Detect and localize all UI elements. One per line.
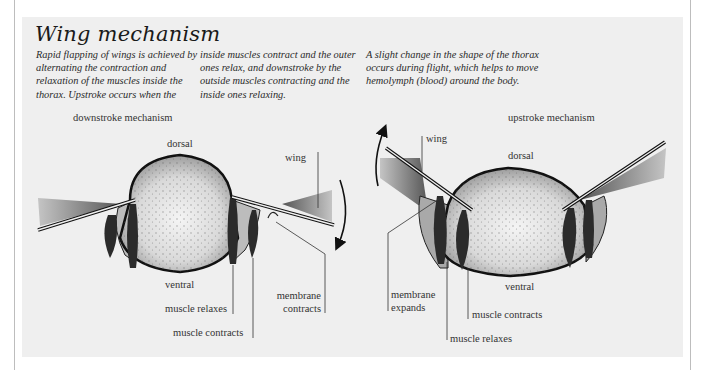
downstroke-membrane-label-line1: membrane xyxy=(273,290,321,301)
right-wing-membrane-icon xyxy=(580,148,666,200)
outer-muscle-left-icon xyxy=(104,215,117,258)
upstroke-ventral-label: ventral xyxy=(505,281,534,292)
upstroke-wing-label: wing xyxy=(426,133,447,144)
downstroke-arrow-icon xyxy=(338,180,346,245)
upstroke-membrane-label-line1: membrane xyxy=(391,289,435,300)
downstroke-dorsal-label: dorsal xyxy=(167,138,193,149)
upstroke-muscle-relaxes-label: muscle relaxes xyxy=(450,333,512,344)
inner-muscle-left-icon xyxy=(127,204,138,268)
downstroke-wing-label: wing xyxy=(285,152,306,163)
downstroke-heading: downstroke mechanism xyxy=(73,112,172,123)
outer-muscle-right-icon xyxy=(583,200,594,258)
upstroke-dorsal-label: dorsal xyxy=(508,150,534,161)
downstroke-membrane-label-line2: contracts xyxy=(279,303,321,314)
downstroke-ventral-label: ventral xyxy=(165,279,194,290)
downstroke-muscle-contracts-label: muscle contracts xyxy=(173,327,243,338)
wing-mechanism-diagrams xyxy=(0,0,705,370)
upstroke-muscle-contracts-label: muscle contracts xyxy=(472,309,542,320)
upstroke-membrane-label-line2: expands xyxy=(391,302,425,313)
upstroke-heading: upstroke mechanism xyxy=(508,112,595,123)
downstroke-muscle-relaxes-label: muscle relaxes xyxy=(165,303,227,314)
inner-muscle-right-icon xyxy=(228,198,239,264)
